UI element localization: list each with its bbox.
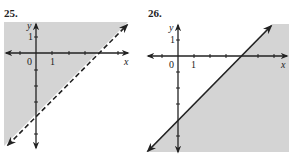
x-axis-label: x	[280, 59, 286, 70]
y-tick-label: 1	[28, 31, 33, 42]
figure: 25. y 1 0 1 x 26.	[0, 0, 293, 160]
graph-25: 25. y 1 0 1 x	[4, 7, 129, 148]
shaded-region	[4, 22, 128, 146]
graph-26: 26. y 1 0 1 x	[146, 7, 289, 152]
x-axis-label: x	[123, 56, 129, 67]
shaded-region	[146, 24, 289, 152]
y-tick-label: 1	[170, 34, 175, 45]
origin-label: 0	[27, 56, 32, 67]
graph-number: 26.	[148, 7, 162, 19]
y-axis-label: y	[26, 20, 32, 31]
x-tick-label: 1	[50, 56, 55, 67]
x-tick-label: 1	[191, 59, 196, 70]
graph-number: 25.	[4, 7, 18, 19]
y-axis-label: y	[168, 22, 174, 33]
origin-label: 0	[169, 59, 174, 70]
